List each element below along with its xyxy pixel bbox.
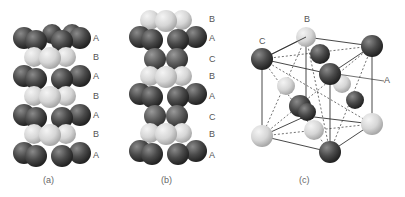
layer-b1 [24, 47, 76, 69]
layer-label: B [93, 129, 99, 139]
panel-c-fcc-unit-cell: B C A (c) [251, 14, 390, 185]
layer-label: B [209, 129, 215, 139]
panel-a-hcp-stack: A B A B A B A (a) [13, 24, 99, 185]
layer-label: A [209, 33, 215, 43]
layer-b1 [140, 66, 192, 88]
layer-b3 [24, 124, 76, 146]
atom-c [251, 48, 273, 70]
panel-b-ccp-stack: B A C B A C B A (b) [129, 10, 216, 185]
layer-label: B [93, 91, 99, 101]
layer-label: A [209, 150, 215, 160]
caption-a: (a) [43, 175, 54, 185]
caption-b: (b) [161, 175, 172, 185]
atom-label-b: B [304, 14, 310, 24]
layer-b2 [140, 123, 192, 145]
layer-label: A [93, 150, 99, 160]
caption-c: (c) [299, 175, 310, 185]
close-packing-diagram: A B A B A B A (a) [0, 0, 405, 197]
layer-label: B [209, 71, 215, 81]
layer-label: A [93, 33, 99, 43]
layer-b2 [24, 86, 76, 108]
layer-label: A [93, 71, 99, 81]
layer-label: A [93, 110, 99, 120]
layer-b-top [140, 10, 192, 32]
layer-label: B [93, 52, 99, 62]
atom-label-c: C [259, 36, 266, 46]
layer-label: B [209, 14, 215, 24]
layer-label: A [209, 91, 215, 101]
layer-label: C [209, 54, 216, 64]
layer-label: C [209, 112, 216, 122]
atom-label-a: A [384, 75, 390, 85]
